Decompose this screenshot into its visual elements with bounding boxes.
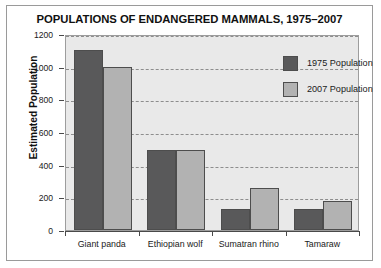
legend-label: 2007 Population bbox=[307, 84, 373, 94]
x-tick-label-tamaraw: Tamaraw bbox=[286, 239, 360, 249]
y-tick-mark bbox=[59, 166, 64, 167]
x-tick-mark bbox=[139, 231, 140, 236]
y-tick-label: 200 bbox=[11, 193, 53, 203]
bar-tamaraw-1975 bbox=[294, 209, 323, 230]
x-tick-mark bbox=[212, 231, 213, 236]
x-tick-mark bbox=[65, 231, 66, 236]
x-tick-mark bbox=[286, 231, 287, 236]
plot-area: 1975 Population2007 Population bbox=[65, 35, 359, 231]
bar-sumatran-rhino-2007 bbox=[250, 188, 279, 230]
x-tick-mark bbox=[359, 231, 360, 236]
legend-swatch-icon bbox=[283, 82, 298, 97]
y-tick-mark bbox=[59, 133, 64, 134]
bar-sumatran-rhino-1975 bbox=[221, 209, 250, 230]
y-tick-label: 400 bbox=[11, 161, 53, 171]
y-tick-mark bbox=[59, 100, 64, 101]
y-tick-mark bbox=[59, 231, 64, 232]
x-tick-label-ethiopian-wolf: Ethiopian wolf bbox=[139, 239, 213, 249]
y-tick-label: 0 bbox=[11, 226, 53, 236]
y-tick-mark bbox=[59, 198, 64, 199]
legend-label: 1975 Population bbox=[307, 58, 373, 68]
legend-swatch-icon bbox=[283, 56, 298, 71]
x-tick-label-giant-panda: Giant panda bbox=[65, 239, 139, 249]
y-tick-mark bbox=[59, 35, 64, 36]
y-tick-label: 800 bbox=[11, 95, 53, 105]
bar-ethiopian-wolf-1975 bbox=[147, 150, 176, 230]
y-axis-title: Estimated Population bbox=[28, 38, 39, 178]
bar-giant-panda-1975 bbox=[74, 50, 103, 230]
bar-ethiopian-wolf-2007 bbox=[176, 150, 205, 230]
chart-figure-frame: POPULATIONS OF ENDANGERED MAMMALS, 1975–… bbox=[6, 5, 373, 261]
chart-title: POPULATIONS OF ENDANGERED MAMMALS, 1975–… bbox=[7, 13, 372, 25]
gridline bbox=[66, 36, 358, 37]
y-tick-label: 1000 bbox=[11, 63, 53, 73]
bar-tamaraw-2007 bbox=[323, 201, 352, 230]
bar-giant-panda-2007 bbox=[103, 67, 132, 230]
y-tick-label: 1200 bbox=[11, 30, 53, 40]
x-tick-label-sumatran-rhino: Sumatran rhino bbox=[212, 239, 286, 249]
y-tick-label: 600 bbox=[11, 128, 53, 138]
y-tick-mark bbox=[59, 68, 64, 69]
